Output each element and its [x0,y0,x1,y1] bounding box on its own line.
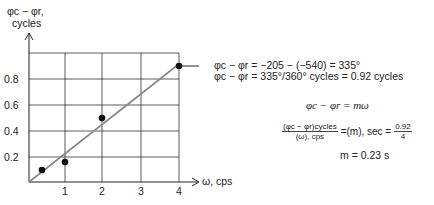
fit-line [29,64,179,182]
y-axis-label-line2: cycles [12,18,41,29]
annotation-slope-equation: (φc − φr)cycles (ω), cps =(m), sec = 0.9… [282,122,412,141]
x-tick-3: 3 [138,186,144,197]
y-tick-0.4: 0.4 [4,126,19,137]
fraction-value: 0.92 4 [394,122,412,141]
x-tick-1: 1 [62,186,68,197]
x-tick-4: 4 [176,186,182,197]
y-tick-0.6: 0.6 [4,100,19,111]
x-tick-2: 2 [99,186,105,197]
fraction-cycles-over-cps: (φc − φr)cycles (ω), cps [282,122,338,141]
annotation-equation: φc − φr = mω [306,100,369,111]
x-axis-label: ω, cps [202,176,232,187]
y-tick-0.8: 0.8 [4,74,19,85]
annotation-phase-cycles: φc − φr = 335°/360° cycles = 0.92 cycles [214,71,403,82]
annotation-result: m = 0.23 s [340,150,389,161]
y-axis-label-line1: φc − φr, [7,6,44,17]
axes [25,33,199,186]
y-tick-0.2: 0.2 [4,152,19,163]
